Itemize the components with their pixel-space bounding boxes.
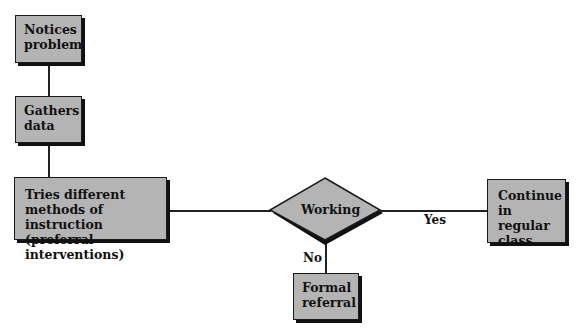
node-formal-referral: Formal referral [293,273,359,320]
node-label: Formal referral [302,280,356,310]
edge-label-no: No [303,251,322,265]
node-continue-regular-class: Continue in regular class [487,179,566,243]
node-label: Working [301,202,360,217]
node-label: Continue in regular class [498,188,562,248]
edge-label-yes: Yes [424,213,446,227]
node-working: Working [301,202,360,217]
